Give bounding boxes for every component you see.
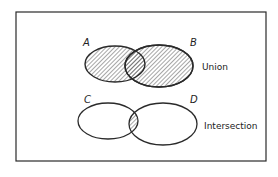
figure-frame: [16, 12, 266, 161]
set-c-label: C: [84, 94, 91, 105]
set-b-label: B: [190, 37, 197, 48]
set-d-label: D: [190, 94, 198, 105]
venn-diagram-figure: A B Union C D Intersection: [0, 0, 278, 177]
set-a-ellipse: [85, 46, 145, 82]
union-caption: Union: [202, 62, 228, 72]
set-a-label: A: [82, 37, 90, 48]
intersection-caption: Intersection: [204, 121, 258, 131]
